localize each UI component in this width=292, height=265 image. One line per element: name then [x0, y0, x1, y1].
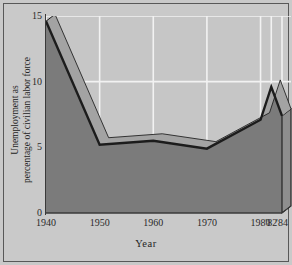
x-axis-tick-label: 1950	[90, 217, 110, 228]
chart-figure: Unemployment as percentage of civilian l…	[0, 0, 292, 265]
x-axis-tick-label: 1940	[36, 217, 56, 228]
x-axis-title: Year	[0, 238, 292, 249]
x-axis-tick-label: 1960	[143, 217, 163, 228]
y-axis-tick-label: 15	[2, 11, 42, 21]
plot-area	[46, 16, 282, 213]
area-chart-svg	[46, 16, 292, 216]
x-axis-tick-label: '84	[276, 217, 288, 228]
y-axis-tick-label: 10	[2, 77, 42, 87]
y-axis-tick-label: 5	[2, 142, 42, 152]
x-axis-tick-label: 1970	[197, 217, 217, 228]
